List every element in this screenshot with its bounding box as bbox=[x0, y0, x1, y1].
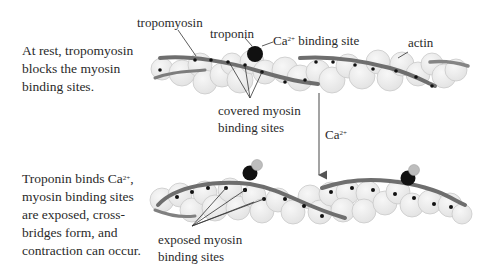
troponin-rest bbox=[247, 46, 263, 62]
exposed-binding-sites-label: exposed myosin binding sites bbox=[158, 231, 242, 265]
tropomyosin-label: tropomyosin bbox=[137, 15, 203, 30]
troponin-calcium-complex-1 bbox=[243, 160, 263, 181]
calcium-binding-site-label: Ca2+ binding site bbox=[273, 33, 359, 48]
calcium-arrow-label: Ca2+ bbox=[325, 127, 347, 142]
troponin-label: troponin bbox=[210, 26, 254, 41]
covered-binding-sites-label: covered myosin binding sites bbox=[218, 102, 301, 136]
troponin-calcium-complex-2 bbox=[401, 165, 420, 186]
actin-label: actin bbox=[408, 35, 433, 50]
